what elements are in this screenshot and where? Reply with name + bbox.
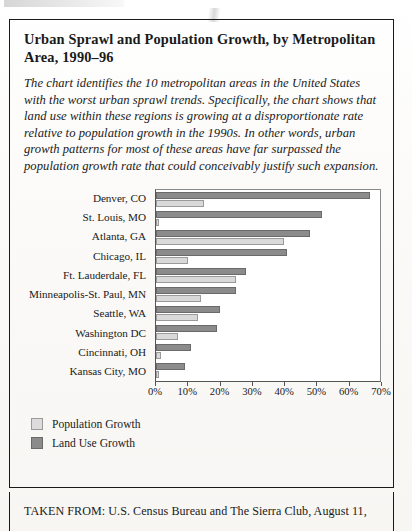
bar-row [156, 228, 380, 247]
category-axis-labels: Denver, COSt. Louis, MOAtlanta, GAChicag… [24, 189, 150, 382]
bar-row [156, 342, 380, 361]
category-label: Denver, CO [24, 189, 150, 208]
plot-area [155, 189, 381, 382]
bar-population-growth [156, 219, 159, 226]
bar-land-use-growth [156, 230, 310, 237]
bar-land-use-growth [156, 344, 191, 351]
category-label: Washington DC [24, 324, 150, 343]
category-label: Kansas City, MO [24, 362, 150, 381]
category-label: Ft. Lauderdale, FL [24, 266, 150, 285]
bar-population-growth [156, 314, 198, 321]
x-tick-label: 10% [178, 386, 197, 397]
category-label: Minneapolis-St. Paul, MN [24, 285, 150, 304]
x-tick-label: 30% [242, 386, 261, 397]
legend-label: Land Use Growth [52, 437, 135, 450]
bar-land-use-growth [156, 287, 236, 294]
bar-population-growth [156, 371, 159, 378]
figure-title: Urban Sprawl and Population Growth, by M… [24, 31, 379, 66]
x-tick-label: 70% [371, 386, 390, 397]
bar-population-growth [156, 238, 284, 245]
figure-description: The chart identifies the 10 metropolitan… [24, 75, 379, 175]
x-tick-label: 60% [339, 386, 358, 397]
x-tick-label: 40% [274, 386, 293, 397]
legend-item: Population Growth [31, 418, 379, 431]
bar-land-use-growth [156, 363, 185, 370]
bar-population-growth [156, 200, 204, 207]
bar-land-use-growth [156, 211, 322, 218]
source-text: TAKEN FROM: U.S. Census Bureau and The S… [24, 504, 379, 519]
bar-chart: Denver, COSt. Louis, MOAtlanta, GAChicag… [24, 189, 381, 404]
bar-land-use-growth [156, 325, 217, 332]
category-label: Atlanta, GA [24, 227, 150, 246]
bar-population-growth [156, 352, 161, 359]
bar-row [156, 323, 380, 342]
legend-label: Population Growth [52, 418, 141, 431]
category-label: Chicago, IL [24, 246, 150, 265]
x-tick-label: 0% [148, 386, 162, 397]
legend-item: Land Use Growth [31, 437, 379, 450]
bar-row [156, 190, 380, 209]
bar-row [156, 361, 380, 380]
category-label: St. Louis, MO [24, 208, 150, 227]
legend-swatch-pop [31, 418, 43, 430]
x-tick-label: 50% [307, 386, 326, 397]
bar-land-use-growth [156, 192, 370, 199]
bar-land-use-growth [156, 249, 287, 256]
bar-population-growth [156, 257, 188, 264]
category-label: Seattle, WA [24, 304, 150, 323]
legend-swatch-land [31, 437, 43, 449]
x-axis: 0%10%20%30%40%50%60%70% [155, 382, 381, 404]
category-label: Cincinnati, OH [24, 343, 150, 362]
bar-row [156, 285, 380, 304]
bar-population-growth [156, 276, 236, 283]
bar-population-growth [156, 295, 201, 302]
figure-container: Urban Sprawl and Population Growth, by M… [9, 19, 394, 488]
x-axis-tick-labels: 0%10%20%30%40%50%60%70% [155, 386, 381, 402]
bar-row [156, 266, 380, 285]
bar-row [156, 247, 380, 266]
bar-population-growth [156, 333, 178, 340]
bar-row [156, 304, 380, 323]
x-tick-label: 20% [210, 386, 229, 397]
chart-legend: Population GrowthLand Use Growth [31, 418, 379, 450]
source-container: TAKEN FROM: U.S. Census Bureau and The S… [9, 492, 394, 531]
scan-smudge [4, 0, 124, 7]
bar-land-use-growth [156, 306, 220, 313]
bar-land-use-growth [156, 268, 246, 275]
bar-rows [156, 190, 380, 381]
bar-row [156, 209, 380, 228]
